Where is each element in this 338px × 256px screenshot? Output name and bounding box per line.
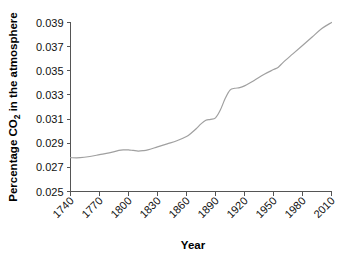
y-axis-title-suffix: in the atmosphere bbox=[7, 12, 19, 114]
y-axis-title-prefix: Percentage CO bbox=[7, 119, 19, 202]
y-tick-label: 0.025 bbox=[36, 186, 64, 198]
x-axis-title: Year bbox=[181, 239, 206, 251]
y-tick-label: 0.031 bbox=[36, 113, 64, 125]
chart-canvas: 0.0250.0270.0290.0310.0330.0350.0370.039… bbox=[0, 0, 338, 256]
y-tick-label: 0.033 bbox=[36, 89, 64, 101]
y-tick-label: 0.039 bbox=[36, 17, 64, 29]
co2-line-chart: 0.0250.0270.0290.0310.0330.0350.0370.039… bbox=[0, 0, 338, 256]
y-tick-label: 0.037 bbox=[36, 41, 64, 53]
y-tick-label: 0.027 bbox=[36, 161, 64, 173]
y-tick-label: 0.035 bbox=[36, 65, 64, 77]
y-tick-label: 0.029 bbox=[36, 137, 64, 149]
